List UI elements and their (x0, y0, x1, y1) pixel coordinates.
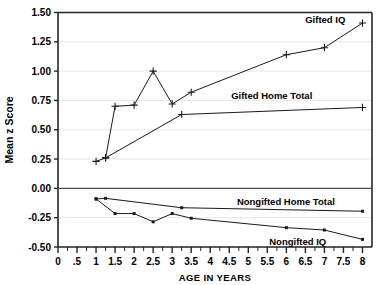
series-line (106, 107, 363, 157)
x-tick-label: 3.5 (184, 256, 198, 267)
grid-lines (58, 42, 372, 247)
data-point (190, 217, 193, 220)
x-tick-label: .5 (73, 256, 82, 267)
y-tick-label: 0.00 (32, 183, 52, 194)
x-tick-label: 5 (246, 256, 252, 267)
data-point (114, 212, 117, 215)
data-point (359, 19, 366, 26)
x-axis-title: AGE IN YEARS (179, 272, 252, 283)
series-label-nongifted-home-total: Nongifted Home Total (237, 196, 335, 207)
x-axis-tick-labels: 0.511.522.533.544.555.566.577.58 (55, 256, 365, 267)
y-tick-label: 1.50 (32, 7, 52, 18)
x-tick-label: 3 (169, 256, 175, 267)
y-tick-label: -0.25 (28, 212, 51, 223)
data-point (171, 212, 174, 215)
y-axis-tick-labels: -0.50-0.250.000.250.500.751.001.251.50 (28, 7, 51, 253)
data-point (169, 100, 176, 107)
x-tick-label: 7 (322, 256, 328, 267)
y-tick-label: 1.00 (32, 66, 52, 77)
data-point (180, 206, 183, 209)
data-point (104, 197, 107, 200)
data-point (285, 226, 288, 229)
y-tick-label: 0.25 (32, 154, 52, 165)
x-axis-ticks (58, 247, 362, 253)
data-point (133, 212, 136, 215)
x-tick-label: 8 (360, 256, 366, 267)
y-tick-label: 0.75 (32, 95, 52, 106)
x-tick-label: 6 (284, 256, 290, 267)
data-point (131, 102, 138, 109)
data-point (361, 210, 364, 213)
x-tick-label: 1.5 (108, 256, 122, 267)
y-tick-label: 1.25 (32, 36, 52, 47)
x-tick-label: 1 (93, 256, 99, 267)
y-tick-label: -0.50 (28, 242, 51, 253)
x-tick-label: 6.5 (298, 256, 312, 267)
data-point (361, 238, 364, 241)
data-point (95, 197, 98, 200)
y-axis-title: Mean z Score (3, 96, 15, 163)
series-gifted-iq (92, 19, 366, 165)
y-tick-label: 0.50 (32, 124, 52, 135)
data-point (188, 89, 195, 96)
series-gifted-home-total (102, 104, 366, 162)
chart-container: -0.50-0.250.000.250.500.751.001.251.50 0… (0, 0, 385, 285)
x-tick-label: 0 (55, 256, 61, 267)
x-tick-label: 4 (207, 256, 213, 267)
x-tick-label: 5.5 (260, 256, 274, 267)
data-point (283, 51, 290, 58)
data-point (111, 103, 118, 110)
data-point (359, 104, 366, 111)
x-tick-label: 4.5 (222, 256, 236, 267)
x-tick-label: 2 (131, 256, 137, 267)
x-tick-label: 2.5 (146, 256, 160, 267)
data-point (323, 229, 326, 232)
x-tick-label: 7.5 (336, 256, 350, 267)
mean-z-score-line-chart: -0.50-0.250.000.250.500.751.001.251.50 0… (0, 0, 385, 285)
data-point (150, 68, 157, 75)
data-point (152, 220, 155, 223)
series-label-gifted-home-total: Gifted Home Total (231, 90, 312, 101)
data-point (321, 44, 328, 51)
series-label-gifted-iq: Gifted IQ (305, 14, 345, 25)
series-label-nongifted-iq: Nongifted IQ (269, 236, 326, 247)
data-point (102, 154, 109, 161)
data-point (178, 111, 185, 118)
